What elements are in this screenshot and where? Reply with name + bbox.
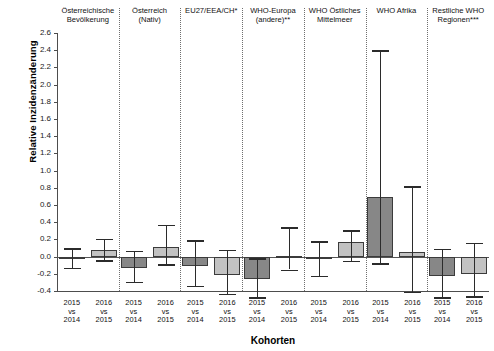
y-axis-tick-label: 2.6 — [23, 29, 51, 37]
error-bar-cap — [187, 240, 204, 242]
y-axis-line — [57, 33, 58, 291]
error-bar-cap — [404, 186, 421, 188]
error-bar-whisker — [104, 239, 105, 261]
error-bar-whisker — [257, 258, 258, 297]
error-bar-cap — [466, 243, 483, 245]
y-axis-tick-label: 1.2 — [23, 149, 51, 157]
error-bar-whisker — [195, 240, 196, 286]
error-bar-cap — [187, 286, 204, 288]
error-bar-cap — [219, 294, 236, 296]
y-axis-tick-label: 0.8 — [23, 184, 51, 192]
group-separator — [366, 8, 367, 291]
x-axis-tick-label: 2016 vs 2015 — [452, 299, 494, 325]
y-axis-tick-label: 0.4 — [23, 218, 51, 226]
error-bar-cap — [404, 292, 421, 294]
error-bar-cap — [126, 282, 143, 284]
error-bar-whisker — [289, 227, 290, 269]
group-header: EU27/EEA/CH* — [180, 6, 242, 15]
y-axis-tick-label: 0.2 — [23, 235, 51, 243]
chart-canvas: Relative Inzidenzänderung 2.62.42.22.01.… — [0, 0, 494, 351]
error-bar-cap — [281, 227, 298, 229]
y-axis-tick-label: 2.0 — [23, 81, 51, 89]
y-axis-tick-label: 2.4 — [23, 46, 51, 54]
group-separator — [119, 8, 120, 291]
error-bar-cap — [434, 249, 451, 251]
error-bar-whisker — [412, 186, 413, 292]
error-bar-cap — [249, 258, 266, 260]
y-axis-tick-label: 1.0 — [23, 167, 51, 175]
group-separator — [304, 8, 305, 291]
error-bar-cap — [64, 248, 81, 250]
error-bar-whisker — [227, 250, 228, 294]
error-bar-cap — [158, 264, 175, 266]
error-bar-whisker — [319, 241, 320, 275]
x-axis-line — [57, 291, 489, 292]
y-axis-tick-label: 0.6 — [23, 201, 51, 209]
error-bar-cap — [281, 270, 298, 272]
x-axis-title: Kohorten — [57, 335, 489, 346]
error-bar-whisker — [442, 249, 443, 297]
group-header: WHO Östliches Mittelmeer — [304, 6, 366, 24]
group-header: Österreich (Nativ) — [119, 6, 181, 24]
group-separator — [180, 8, 181, 291]
error-bar-cap — [64, 268, 81, 270]
y-axis-tick-label: 1.8 — [23, 98, 51, 106]
error-bar-cap — [311, 241, 328, 243]
y-axis-tick-label: 2.2 — [23, 63, 51, 71]
error-bar-cap — [372, 50, 389, 52]
y-axis-tick-label: -0.4 — [23, 287, 51, 295]
error-bar-cap — [96, 260, 113, 262]
error-bar-whisker — [72, 248, 73, 268]
error-bar-whisker — [474, 243, 475, 296]
group-header: WHO-Europa (andere)** — [242, 6, 304, 24]
y-axis-tick-label: -0.2 — [23, 270, 51, 278]
error-bar-cap — [219, 250, 236, 252]
error-bar-cap — [343, 261, 360, 263]
error-bar-whisker — [351, 230, 352, 261]
error-bar-cap — [96, 239, 113, 241]
error-bar-cap — [343, 230, 360, 232]
error-bar-whisker — [166, 225, 167, 265]
error-bar-cap — [311, 276, 328, 278]
y-axis-tick-label: 0.0 — [23, 253, 51, 261]
y-axis-tick-label: 1.4 — [23, 132, 51, 140]
group-header: Österreichische Bevölkerung — [57, 6, 119, 24]
error-bar-whisker — [134, 251, 135, 282]
group-header: WHO Afrika — [366, 6, 428, 15]
group-separator — [242, 8, 243, 291]
y-axis-tick-label: 1.6 — [23, 115, 51, 123]
error-bar-cap — [158, 225, 175, 227]
group-separator — [427, 8, 428, 291]
error-bar-cap — [126, 251, 143, 253]
error-bar-cap — [372, 263, 389, 265]
error-bar-whisker — [380, 50, 381, 263]
group-header: Restliche WHO Regionen*** — [427, 6, 489, 24]
